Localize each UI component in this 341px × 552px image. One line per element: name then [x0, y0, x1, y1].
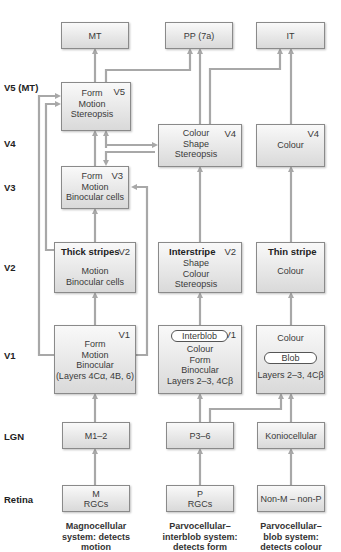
box-lgn-m: M1–2 [62, 422, 130, 449]
box-v4-right-tag: V4 [307, 129, 319, 140]
v1-left-line: Binocular [55, 360, 135, 371]
box-mt-label: MT [62, 30, 128, 41]
v5-line: Stereopsis [54, 109, 130, 120]
level-label-lgn: LGN [4, 431, 24, 442]
box-retina-m: M RGCs [62, 485, 130, 512]
lgn-k-label: Koniocellular [258, 430, 324, 441]
retina-m-line: M [63, 488, 129, 499]
retina-k-label: Non-M – non-P [258, 493, 324, 504]
box-v2-thin: Thin stripe Colour [256, 242, 325, 293]
caption-blob: Parvocellular– blob system: detects colo… [252, 521, 330, 552]
v4-mid-line: Colour [151, 128, 241, 139]
caption-line: Parvocellular– [158, 521, 242, 532]
box-v2-inter-tag: V2 [224, 247, 236, 258]
caption-magnocellular: Magnocellular system: detects motion [48, 521, 144, 552]
box-v5: V5 Form Motion Stereopsis [61, 82, 131, 131]
v1-mid-line: Layers 2–3, 4Cβ [159, 376, 241, 387]
caption-line: blob system: [252, 532, 330, 543]
level-label-v2: V2 [4, 262, 16, 273]
box-v4-right: V4 Colour [256, 124, 325, 167]
box-v1-blob: Colour Blob Layers 2–3, 4Cβ [256, 325, 325, 394]
v2-thin-line: Colour [257, 266, 324, 277]
v4-mid-line: Shape [151, 139, 241, 150]
v5-line: Form [54, 88, 130, 99]
level-label-v5: V5 (MT) [4, 82, 38, 93]
box-v4-mid: V4 Colour Shape Stereopsis [158, 124, 242, 167]
v4-right-line: Colour [257, 140, 324, 151]
box-pp: PP (7a) [165, 22, 233, 49]
caption-line: detects form [158, 542, 242, 552]
v2-inter-line: Shape [151, 258, 241, 269]
v3-line: Motion [62, 182, 128, 193]
v1-left-line: Form [55, 339, 135, 350]
v2-inter-line: Stereopsis [151, 279, 241, 290]
box-v1-interblob: V1 Interblob Colour Form Binocular Layer… [158, 325, 242, 394]
level-label-v4: V4 [4, 138, 16, 149]
interblob-pill: Interblob [171, 330, 228, 342]
box-v2-thick: Thick stripes V2 Motion Binocular cells [54, 242, 136, 293]
v3-line: Binocular cells [62, 192, 128, 203]
v1-mid-line: Form [159, 355, 241, 366]
box-v2-thick-title: Thick stripes [61, 247, 120, 258]
level-label-v3: V3 [4, 182, 16, 193]
v1-left-line: (Layers 4Cα, 4B, 6) [55, 371, 135, 382]
v1-right-top: Colour [257, 333, 324, 344]
v3-line: Form [56, 171, 128, 182]
v4-mid-line: Stereopsis [151, 149, 241, 160]
caption-line: interblob system: [158, 532, 242, 543]
level-label-retina: Retina [4, 494, 33, 505]
lgn-p-label: P3–6 [167, 430, 233, 441]
v5-line: Motion [54, 99, 130, 110]
v2-inter-line: Colour [151, 269, 241, 280]
box-v2-thin-title: Thin stripe [268, 247, 317, 258]
box-retina-p: P RGCs [166, 485, 234, 512]
caption-line: Magnocellular [48, 521, 144, 532]
lgn-m-label: M1–2 [63, 430, 129, 441]
caption-line: detects colour [252, 542, 330, 552]
box-lgn-p: P3–6 [166, 422, 234, 449]
box-it-label: IT [257, 30, 324, 41]
retina-m-line: RGCs [63, 499, 129, 510]
v1-right-bottom: Layers 2–3, 4Cβ [257, 370, 324, 381]
retina-p-line: P [167, 488, 233, 499]
v1-mid-line: Colour [159, 344, 241, 355]
v1-left-line: Motion [55, 350, 135, 361]
box-lgn-k: Koniocellular [257, 422, 325, 449]
box-v3: V3 Form Motion Binocular cells [61, 166, 129, 209]
box-v2-thick-tag: V2 [118, 247, 130, 258]
box-mt: MT [61, 22, 129, 49]
v2-thick-line: Binocular cells [55, 277, 135, 288]
v1-mid-line: Binocular [159, 365, 241, 376]
retina-p-line: RGCs [167, 499, 233, 510]
box-it: IT [256, 22, 325, 49]
caption-line: system: detects motion [48, 532, 144, 552]
box-v2-inter-title: Interstripe [169, 247, 215, 258]
caption-line: Parvocellular– [252, 521, 330, 532]
box-v1-magno: V1 Form Motion Binocular (Layers 4Cα, 4B… [54, 325, 136, 394]
box-retina-k: Non-M – non-P [257, 485, 325, 512]
blob-pill: Blob [264, 352, 316, 364]
box-v2-interstripe: Interstripe V2 Shape Colour Stereopsis [158, 242, 242, 293]
v2-thick-line: Motion [55, 266, 135, 277]
level-label-v1: V1 [4, 350, 16, 361]
caption-interblob: Parvocellular– interblob system: detects… [158, 521, 242, 552]
box-pp-label: PP (7a) [166, 30, 232, 41]
